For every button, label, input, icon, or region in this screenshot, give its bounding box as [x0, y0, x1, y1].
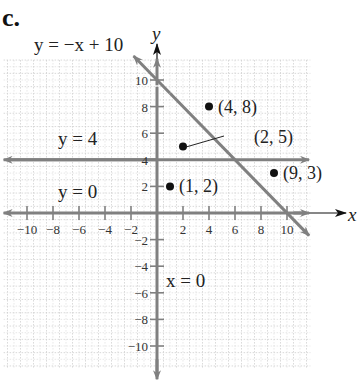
y-tick-label: 8 — [142, 100, 149, 115]
y-tick-label: 4 — [142, 153, 149, 168]
data-point — [270, 169, 278, 177]
y-tick-label: −8 — [134, 312, 148, 327]
point-label: (2, 5) — [254, 127, 293, 148]
equation-diagonal-label: y = −x + 10 — [34, 34, 123, 55]
equation-y4-label: y = 4 — [58, 128, 98, 149]
x-tick-label: −4 — [98, 222, 112, 237]
graph-lines — [4, 44, 346, 379]
y-tick-label: 10 — [135, 73, 148, 88]
x-tick-label: −8 — [46, 222, 60, 237]
x-tick-label: −6 — [72, 222, 86, 237]
y-tick-label: −10 — [128, 339, 148, 354]
y-axis-label: y — [150, 23, 161, 44]
data-point — [205, 103, 213, 111]
y-tick-label: −6 — [134, 286, 148, 301]
point-label: (1, 2) — [179, 176, 218, 197]
x-axis-label: x — [347, 204, 357, 225]
x-tick-label: 4 — [206, 222, 213, 237]
x-tick-label: −10 — [17, 222, 37, 237]
x-tick-label: 6 — [232, 222, 239, 237]
equation-x0-label: x = 0 — [166, 270, 205, 291]
y-tick-label: 6 — [142, 126, 149, 141]
y-tick-label: −4 — [134, 259, 148, 274]
x-tick-label: 2 — [180, 222, 187, 237]
data-point — [179, 143, 187, 151]
y-tick-label: −2 — [134, 233, 148, 248]
x-tick-label: 10 — [281, 222, 294, 237]
coordinate-plane-figure: −10−8−6−4−2246810−10−8−6−4−2246810 (4, 8… — [0, 0, 359, 386]
point-label: (9, 3) — [283, 163, 322, 184]
x-tick-label: 8 — [258, 222, 265, 237]
part-label: c. — [2, 3, 20, 32]
y-tick-label: 2 — [142, 179, 149, 194]
point-label: (4, 8) — [218, 97, 257, 118]
data-point — [166, 182, 174, 190]
equation-y0-label: y = 0 — [58, 181, 97, 202]
